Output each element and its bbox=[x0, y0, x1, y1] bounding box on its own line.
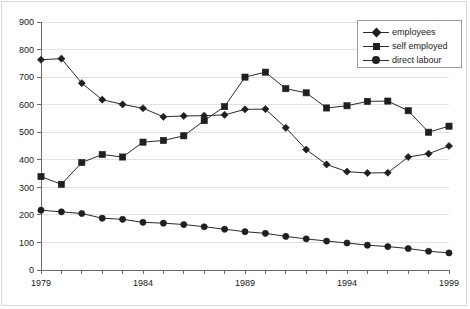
data-point-marker bbox=[445, 142, 452, 149]
data-point-marker bbox=[222, 226, 228, 232]
data-point-marker bbox=[160, 220, 166, 226]
data-point-marker bbox=[99, 215, 105, 221]
y-axis-tick-label: 400 bbox=[19, 155, 34, 165]
square-marker-icon bbox=[363, 40, 389, 52]
data-point-marker bbox=[426, 248, 432, 254]
data-point-marker bbox=[343, 168, 350, 175]
y-axis-tick-label: 700 bbox=[19, 72, 34, 82]
data-point-marker bbox=[446, 250, 452, 256]
data-point-marker bbox=[241, 106, 248, 113]
legend-label-direct-labour: direct labour bbox=[392, 54, 442, 66]
series-employees bbox=[37, 55, 452, 177]
data-point-marker bbox=[120, 216, 126, 222]
data-point-marker bbox=[58, 209, 64, 215]
data-point-marker bbox=[160, 137, 166, 143]
y-axis-tick-label: 100 bbox=[19, 238, 34, 248]
y-axis-tick-label: 500 bbox=[19, 127, 34, 137]
x-axis-tick-label: 1989 bbox=[235, 278, 255, 288]
x-axis-tick-label: 1994 bbox=[337, 278, 357, 288]
data-point-marker bbox=[385, 98, 391, 104]
data-point-marker bbox=[344, 103, 350, 109]
data-point-marker bbox=[324, 105, 330, 111]
data-point-marker bbox=[364, 169, 371, 176]
y-axis-tick-label: 800 bbox=[19, 45, 34, 55]
data-point-marker bbox=[323, 161, 330, 168]
data-point-marker bbox=[99, 151, 105, 157]
data-point-marker bbox=[405, 108, 411, 114]
legend-item-employees: employees bbox=[363, 25, 456, 39]
data-point-marker bbox=[303, 236, 309, 242]
y-axis-tick-label: 900 bbox=[19, 17, 34, 27]
legend-item-direct-labour: direct labour bbox=[363, 53, 456, 67]
data-point-marker bbox=[364, 98, 370, 104]
data-point-marker bbox=[242, 229, 248, 235]
data-point-marker bbox=[385, 243, 391, 249]
legend-label-self-employed: self employed bbox=[392, 40, 448, 52]
data-point-marker bbox=[303, 90, 309, 96]
data-point-marker bbox=[79, 159, 85, 165]
data-point-marker bbox=[37, 56, 44, 63]
y-axis-tick-label: 600 bbox=[19, 100, 34, 110]
data-point-marker bbox=[79, 210, 85, 216]
data-point-marker bbox=[140, 219, 146, 225]
y-axis-tick-label: 300 bbox=[19, 183, 34, 193]
data-point-marker bbox=[160, 113, 167, 120]
y-axis-tick-label: 0 bbox=[29, 265, 34, 275]
series-self-employed bbox=[38, 69, 452, 187]
chart-legend: employees self employed direct labour bbox=[357, 20, 462, 68]
data-point-marker bbox=[344, 240, 350, 246]
legend-label-employees: employees bbox=[392, 26, 436, 38]
data-point-marker bbox=[446, 123, 452, 129]
data-point-marker bbox=[262, 69, 268, 75]
data-point-marker bbox=[242, 74, 248, 80]
series-line bbox=[41, 72, 449, 184]
data-point-marker bbox=[38, 207, 44, 213]
circle-marker-icon bbox=[363, 54, 389, 66]
legend-item-self-employed: self employed bbox=[363, 39, 456, 53]
data-point-marker bbox=[283, 86, 289, 92]
data-point-marker bbox=[181, 133, 187, 139]
x-axis-tick-label: 1984 bbox=[133, 278, 153, 288]
data-point-marker bbox=[262, 230, 268, 236]
data-point-marker bbox=[201, 224, 207, 230]
data-point-marker bbox=[425, 150, 432, 157]
data-point-marker bbox=[38, 173, 44, 179]
diamond-marker-icon bbox=[363, 26, 389, 38]
x-axis-tick-label: 1979 bbox=[31, 278, 51, 288]
data-point-marker bbox=[283, 233, 289, 239]
data-point-marker bbox=[140, 139, 146, 145]
x-axis-tick-label: 1999 bbox=[439, 278, 459, 288]
data-point-marker bbox=[139, 105, 146, 112]
data-point-marker bbox=[181, 221, 187, 227]
y-axis-tick-label: 200 bbox=[19, 210, 34, 220]
data-point-marker bbox=[222, 104, 228, 110]
line-chart: 0100200300400500600700800900 19791984198… bbox=[0, 0, 470, 309]
data-point-marker bbox=[426, 129, 432, 135]
data-point-marker bbox=[201, 118, 207, 124]
y-axis-ticks: 0100200300400500600700800900 bbox=[19, 17, 41, 275]
data-point-marker bbox=[221, 111, 228, 118]
data-point-marker bbox=[405, 245, 411, 251]
x-axis-ticks: 19791984198919941999 bbox=[31, 270, 459, 288]
data-point-marker bbox=[119, 101, 126, 108]
data-point-marker bbox=[58, 181, 64, 187]
data-point-marker bbox=[120, 154, 126, 160]
data-point-marker bbox=[324, 238, 330, 244]
data-point-marker bbox=[364, 242, 370, 248]
data-series bbox=[37, 55, 452, 256]
data-point-marker bbox=[180, 112, 187, 119]
